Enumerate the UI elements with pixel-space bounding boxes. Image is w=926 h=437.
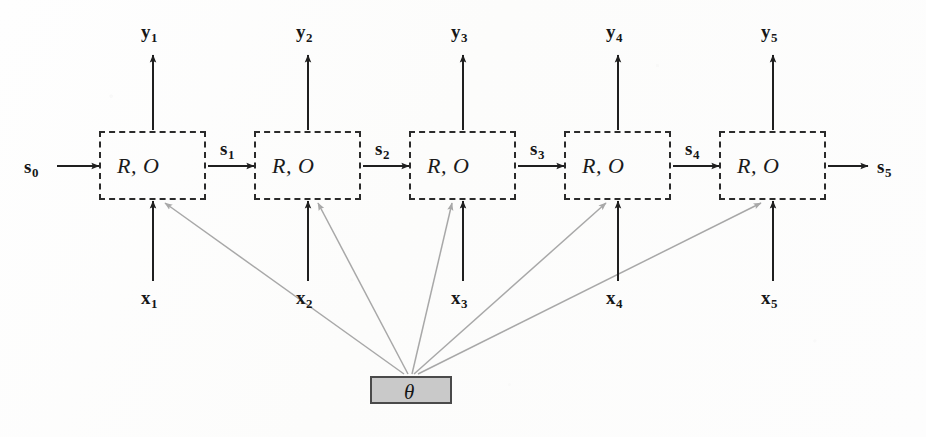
state-label-s4-base: s (685, 138, 692, 159)
output-label-y2-base: y (296, 21, 306, 42)
output-label-y4-base: y (606, 21, 616, 42)
output-label-y5: y5 (761, 22, 777, 45)
output-label-y1: y1 (141, 22, 157, 45)
input-label-x1-sub: 1 (151, 296, 157, 311)
theta-to-cell-1-arrow (165, 203, 404, 374)
input-label-x5-base: x (761, 287, 771, 308)
rnn-cell-4-label: R, O (582, 153, 624, 179)
state-label-s2-base: s (375, 138, 382, 159)
state-label-s1-base: s (220, 138, 227, 159)
state-label-s4: s4 (685, 139, 699, 162)
input-label-x2-base: x (296, 287, 306, 308)
input-label-x3-base: x (451, 287, 461, 308)
state-label-s4-sub: 4 (693, 147, 699, 162)
state-label-s1-sub: 1 (228, 147, 234, 162)
state-label-s3-sub: 3 (538, 147, 544, 162)
rnn-unfolded-figure: R, O R, O R, O R, O R, O y1 y2 y3 y4 y5 … (0, 0, 926, 437)
connector-layer (0, 0, 926, 437)
output-label-y5-base: y (761, 21, 771, 42)
input-label-x4-sub: 4 (616, 296, 622, 311)
input-label-x2: x2 (296, 288, 312, 311)
input-label-x4: x4 (606, 288, 622, 311)
state-label-s1: s1 (220, 139, 234, 162)
output-label-y5-sub: 5 (771, 30, 777, 45)
theta-parameter-label: θ (404, 382, 414, 403)
state-label-s2-sub: 2 (383, 147, 389, 162)
state-label-s0-base: s (24, 156, 31, 177)
output-label-y2-sub: 2 (306, 30, 312, 45)
state-label-s2: s2 (375, 139, 389, 162)
rnn-cell-1-label: R, O (117, 153, 159, 179)
input-label-x2-sub: 2 (306, 296, 312, 311)
theta-to-cell-3-arrow (412, 203, 452, 374)
output-label-y4: y4 (606, 22, 622, 45)
input-label-x3: x3 (451, 288, 467, 311)
output-label-y1-sub: 1 (151, 30, 157, 45)
state-label-s5-base: s (877, 156, 884, 177)
theta-to-cell-5-arrow (418, 203, 761, 374)
input-label-x1: x1 (141, 288, 157, 311)
input-label-x5: x5 (761, 288, 777, 311)
output-label-y1-base: y (141, 21, 151, 42)
state-label-s3: s3 (530, 139, 544, 162)
theta-to-cell-2-arrow (318, 203, 408, 374)
output-arrows (153, 55, 773, 130)
rnn-cell-3-label: R, O (427, 153, 469, 179)
input-label-x3-sub: 3 (461, 296, 467, 311)
input-label-x1-base: x (141, 287, 151, 308)
state-label-s0-sub: 0 (32, 165, 38, 180)
state-label-s5: s5 (877, 157, 891, 180)
theta-to-cell-4-arrow (414, 203, 606, 374)
state-label-s5-sub: 5 (885, 165, 891, 180)
input-arrows (153, 201, 773, 281)
state-label-s0: s0 (24, 157, 38, 180)
input-label-x5-sub: 5 (771, 296, 777, 311)
output-label-y3-sub: 3 (461, 30, 467, 45)
output-label-y4-sub: 4 (616, 30, 622, 45)
state-label-s3-base: s (530, 138, 537, 159)
output-label-y3-base: y (451, 21, 461, 42)
output-label-y3: y3 (451, 22, 467, 45)
output-label-y2: y2 (296, 22, 312, 45)
rnn-cell-5-label: R, O (737, 153, 779, 179)
input-label-x4-base: x (606, 287, 616, 308)
rnn-cell-2-label: R, O (272, 153, 314, 179)
